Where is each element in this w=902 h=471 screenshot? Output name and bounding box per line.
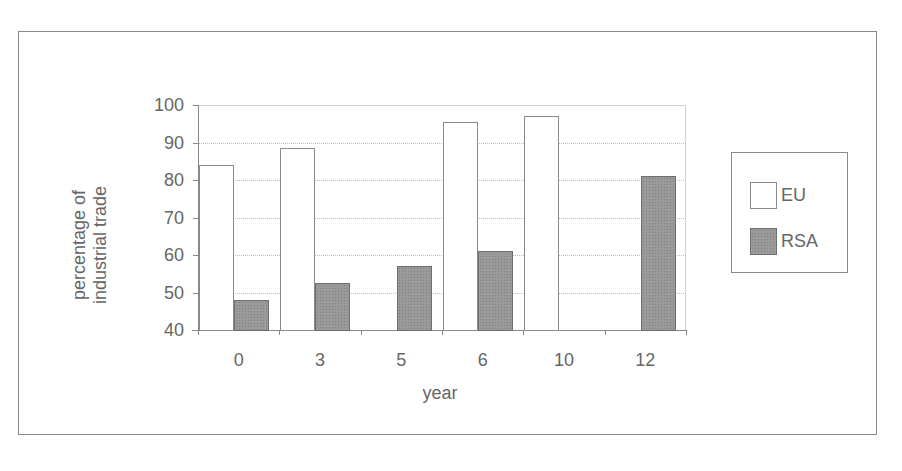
y-axis-title-line-1: percentage of [69, 145, 90, 345]
y-tick-label: 60 [134, 246, 184, 264]
x-tick [605, 330, 606, 335]
bar-rsa-year-5 [397, 266, 432, 331]
bar-eu-year-6 [443, 122, 478, 331]
legend: EU RSA [731, 152, 848, 273]
y-tick-label: 70 [134, 209, 184, 227]
y-tick [193, 105, 199, 106]
bar-rsa-year-3 [315, 283, 350, 331]
y-tick-label: 100 [134, 96, 184, 114]
gridline [198, 255, 686, 256]
gridline [198, 293, 686, 294]
bar-eu-year-0 [199, 165, 234, 331]
y-tick-label: 90 [134, 134, 184, 152]
x-tick-label: 5 [371, 350, 431, 371]
legend-swatch-eu [750, 182, 777, 209]
legend-label-eu: EU [781, 185, 806, 206]
x-tick-label: 10 [534, 350, 594, 371]
gridline [198, 218, 686, 219]
y-axis-title-line-2: industrial trade [90, 145, 111, 345]
legend-item-rsa: RSA [750, 227, 818, 255]
x-tick-label: 0 [209, 350, 269, 371]
legend-swatch-rsa [750, 228, 777, 255]
y-tick-label: 40 [134, 321, 184, 339]
bar-eu-year-3 [280, 148, 315, 331]
x-tick-label: 6 [453, 350, 513, 371]
x-axis-title: year [400, 383, 480, 404]
y-tick [193, 143, 199, 144]
legend-label-rsa: RSA [781, 231, 818, 252]
y-tick-label: 80 [134, 171, 184, 189]
x-tick [686, 330, 687, 335]
bar-rsa-year-6 [478, 251, 513, 331]
gridline [198, 143, 686, 144]
x-tick-label: 3 [290, 350, 350, 371]
bar-eu-year-10 [524, 116, 559, 331]
gridline [198, 180, 686, 181]
legend-item-eu: EU [750, 181, 806, 209]
y-tick-label: 50 [134, 284, 184, 302]
bar-rsa-year-0 [234, 300, 269, 331]
x-tick [361, 330, 362, 335]
x-tick-label: 12 [615, 350, 675, 371]
bar-rsa-year-12 [641, 176, 676, 331]
y-axis-title: percentage of industrial trade [69, 145, 111, 345]
